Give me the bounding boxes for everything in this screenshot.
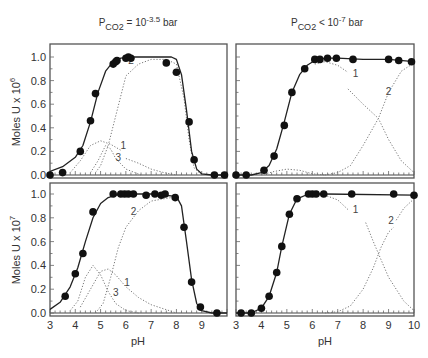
panel-top-left: 0.00.20.40.60.81.0123	[31, 44, 229, 181]
data-point	[127, 54, 135, 62]
plot-frame	[236, 44, 414, 178]
data-point	[237, 309, 245, 317]
species-label: 2	[386, 86, 392, 97]
y-tick-label: 0.0	[31, 307, 46, 319]
uranium-speciation-chart: PCO2 = 10-3.5 barPCO2 < 10-7 bar 0.00.20…	[0, 0, 428, 358]
plot-frame	[50, 44, 227, 178]
data-point	[211, 171, 219, 179]
model-fit-curve	[236, 194, 414, 313]
data-point	[92, 90, 100, 98]
data-point	[293, 195, 301, 203]
data-point	[390, 190, 398, 198]
species-curve	[261, 169, 325, 175]
x-tick-label: 6	[309, 319, 315, 331]
data-point	[185, 118, 193, 126]
data-point	[142, 191, 150, 199]
data-point	[59, 169, 67, 177]
species-curve	[80, 269, 176, 313]
data-point	[180, 224, 188, 232]
axis-titles: pHpHMoles U x 106Moles U x 107	[8, 77, 332, 347]
species-curve	[70, 141, 121, 173]
y-tick-label: 1.0	[31, 188, 46, 200]
x-tick-label: 6	[123, 319, 129, 331]
species-label: 1	[124, 277, 130, 288]
data-point	[385, 56, 393, 64]
species-curve	[396, 199, 414, 220]
x-tick-label: 8	[360, 319, 366, 331]
panel-title: PCO2 < 10-7 bar	[291, 15, 364, 32]
data-point	[161, 190, 169, 198]
y-tick-label: 0.2	[31, 145, 46, 157]
data-point	[72, 270, 80, 278]
data-point	[61, 293, 69, 301]
data-point	[213, 309, 221, 317]
x-tick-label: 3	[233, 319, 239, 331]
data-point	[281, 122, 289, 130]
x-axis-title: pH	[318, 335, 332, 347]
species-curve	[325, 63, 414, 175]
x-tick-label: 7	[335, 319, 341, 331]
y-tick-label: 0.4	[31, 259, 46, 271]
y-axis-title: Moles U x 107	[8, 215, 22, 284]
data-point	[79, 250, 87, 258]
x-axis-title: pH	[131, 335, 145, 347]
y-tick-label: 0.0	[31, 169, 46, 181]
species-label: 1	[121, 140, 127, 151]
species-curve	[325, 227, 394, 313]
panel-title: PCO2 = 10-3.5 bar	[99, 15, 178, 32]
data-point	[320, 190, 328, 198]
data-point	[87, 117, 95, 125]
y-tick-label: 0.6	[31, 98, 46, 110]
data-point	[286, 210, 294, 218]
data-points	[237, 190, 418, 317]
species-label: 3	[115, 152, 121, 163]
data-point	[190, 156, 198, 164]
data-point	[173, 69, 181, 77]
y-tick-label: 0.4	[31, 122, 46, 134]
model-fit-curve	[50, 57, 227, 175]
species-curve	[348, 89, 414, 173]
data-point	[188, 278, 196, 286]
data-point	[46, 171, 54, 179]
data-point	[349, 56, 357, 64]
data-point	[89, 208, 97, 216]
y-tick-label: 1.0	[31, 51, 46, 63]
data-point	[109, 190, 117, 198]
data-point	[312, 190, 320, 198]
data-point	[260, 167, 268, 175]
data-point	[242, 171, 250, 179]
x-tick-label: 4	[72, 319, 78, 331]
species-label: 3	[113, 287, 119, 298]
species-curve	[96, 59, 202, 175]
species-label: 1	[353, 204, 359, 215]
data-point	[333, 54, 341, 62]
x-tick-label: 4	[258, 319, 264, 331]
data-point	[248, 309, 256, 317]
chart-panels: 0.00.20.40.60.81.0123120.00.20.40.60.81.…	[31, 44, 420, 331]
y-axis-title: Moles U x 106	[8, 77, 22, 146]
y-tick-label: 0.8	[31, 75, 46, 87]
species-curve	[366, 223, 414, 311]
data-point	[270, 152, 278, 160]
data-point	[258, 304, 266, 312]
x-tick-label: 8	[173, 319, 179, 331]
plot-frame	[236, 183, 414, 316]
data-point	[395, 57, 403, 65]
model-fit-curve	[50, 194, 227, 313]
y-tick-label: 0.8	[31, 212, 46, 224]
x-tick-label: 3	[47, 319, 53, 331]
data-point	[410, 191, 418, 199]
data-point	[171, 194, 179, 202]
data-point	[301, 65, 309, 73]
data-point	[348, 190, 356, 198]
data-point	[130, 190, 138, 198]
species-label: 1	[353, 68, 359, 79]
data-point	[408, 58, 416, 66]
panel-bottom-left: 0.00.20.40.60.81.03456789123	[31, 183, 227, 331]
data-point	[324, 54, 332, 62]
data-point	[113, 57, 121, 65]
species-curve	[315, 62, 348, 73]
data-point	[278, 243, 286, 251]
x-tick-label: 7	[148, 319, 154, 331]
x-tick-label: 5	[284, 319, 290, 331]
